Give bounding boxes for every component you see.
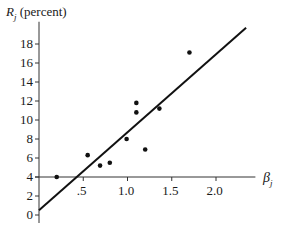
x-tick-label: 2.0 [206, 184, 222, 197]
data-point [157, 106, 162, 111]
y-axis-label: Rj (percent) [6, 4, 67, 22]
y-tick-label: 6 [27, 151, 34, 164]
data-point [108, 160, 113, 165]
y-tick-label: 16 [20, 56, 33, 69]
data-point [98, 163, 103, 168]
y-tick-label: 18 [20, 37, 33, 50]
y-tick-label: 14 [20, 75, 33, 88]
data-point [124, 137, 129, 142]
x-axis [35, 177, 255, 181]
data-point [85, 153, 90, 158]
scatter-chart [0, 0, 289, 237]
x-tick-label: 1.5 [162, 184, 178, 197]
y-tick-label: 8 [27, 132, 34, 145]
data-point [187, 50, 192, 55]
data-point [134, 110, 139, 115]
y-tick-label: 0 [27, 208, 34, 221]
y-tick-label: 4 [27, 170, 34, 183]
data-point [134, 101, 139, 106]
y-tick-label: 12 [20, 94, 33, 107]
y-tick-label: 2 [27, 189, 34, 202]
x-axis-label: βj [263, 170, 273, 188]
x-tick-label: .5 [77, 184, 87, 197]
x-tick-label: 1.0 [118, 184, 134, 197]
y-axis [35, 22, 39, 223]
data-point [54, 175, 59, 180]
y-tick-label: 10 [20, 113, 33, 126]
data-point [143, 147, 148, 152]
data-points [54, 50, 191, 179]
